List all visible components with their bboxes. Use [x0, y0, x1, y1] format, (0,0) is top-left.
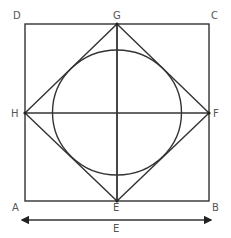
- label-b: B: [212, 202, 219, 213]
- label-g: G: [113, 10, 121, 21]
- label-c: C: [211, 10, 218, 21]
- vertex-f-dot: [207, 111, 210, 114]
- label-h: H: [11, 108, 19, 119]
- label-e: E: [113, 202, 119, 213]
- dimension-label: E: [113, 223, 119, 234]
- label-f: F: [213, 108, 219, 119]
- geometry-diagram: D G C H F A E B E: [0, 0, 231, 238]
- vertex-h-dot: [23, 111, 26, 114]
- vertex-g-dot: [115, 22, 118, 25]
- label-a: A: [12, 202, 19, 213]
- label-d: D: [13, 10, 21, 21]
